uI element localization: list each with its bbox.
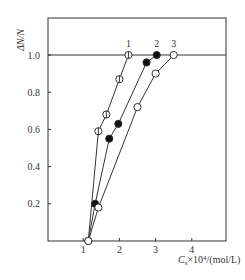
data-point (153, 51, 160, 58)
series-markers (85, 51, 178, 244)
axes: 12340.20.40.60.81.0 (28, 50, 195, 256)
series-label-3: 3 (171, 38, 176, 49)
y-axis-label: ΔN/N (15, 28, 26, 52)
y-tick-label: 0.8 (28, 87, 41, 98)
data-point (85, 237, 92, 244)
data-point (170, 51, 177, 58)
data-point (134, 103, 141, 110)
plot-border (48, 18, 226, 241)
chart: 12340.20.40.60.81.0 123 ΔN/N Cs×104/(mol… (0, 0, 245, 280)
y-tick-label: 1.0 (28, 50, 41, 61)
series-lines (88, 55, 173, 241)
x-tick-label: 1 (81, 244, 86, 255)
x-tick-label: 2 (117, 244, 122, 255)
y-tick-label: 0.4 (28, 161, 41, 172)
data-point (143, 59, 150, 66)
y-tick-label: 0.6 (28, 124, 41, 135)
x-axis-label: Cs×104/(mol/L) (178, 254, 240, 267)
x-tick-label: 3 (153, 244, 158, 255)
series-line-2 (88, 55, 156, 241)
data-point (115, 120, 122, 127)
series-line-1 (88, 55, 128, 241)
data-point (106, 135, 113, 142)
series-labels: 123 (126, 38, 176, 49)
y-tick-label: 0.2 (28, 198, 41, 209)
series-label-2: 2 (154, 38, 159, 49)
plot-frame (48, 18, 226, 241)
chart-svg: 12340.20.40.60.81.0 123 ΔN/N Cs×104/(mol… (0, 0, 245, 280)
series-line-3 (88, 55, 173, 241)
series-label-1: 1 (126, 38, 131, 49)
data-point (152, 70, 159, 77)
data-point (95, 204, 102, 211)
